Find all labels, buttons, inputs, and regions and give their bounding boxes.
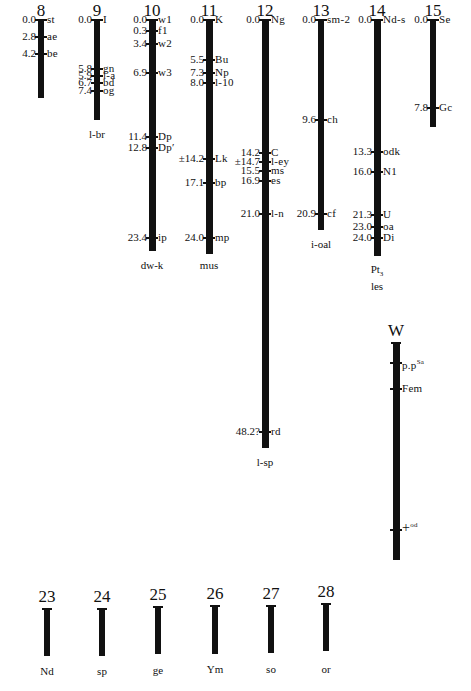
gene-symbol: I [103,14,107,25]
locus-tick [35,53,47,55]
locus-tick [203,237,215,239]
locus-tick [203,72,215,74]
linkage-group-title: 23 [27,588,67,605]
gene-symbol: Lk [215,153,228,164]
locus-tick [35,19,47,21]
locus-tick [315,19,327,21]
locus-position: 13.3 [353,146,372,157]
gene-symbol: f1 [158,25,168,36]
locus-tick [146,147,158,149]
linkage-map: 80.0st2.8ae4.2be90.0I5.8gn5.9l-a6.7bd7.4… [0,0,471,691]
locus-tick [315,119,327,121]
gene-symbol: N1 [383,166,397,177]
linkage-group-footer: ge [128,664,188,676]
chromosome-bar [99,608,105,656]
locus-tick [203,82,215,84]
chromosome-bar [323,603,329,651]
locus-position: ±14.2 [179,153,204,164]
gene-symbol: be [47,48,58,59]
linkage-group-footer: so [241,663,301,675]
linkage-group-title: W [376,322,416,339]
gene-symbol: K [215,14,223,25]
linkage-group-title: 28 [306,583,346,600]
locus-tick [427,19,439,21]
locus-position: 3.4 [133,38,147,49]
locus-tick [203,19,215,21]
gene-symbol: Gc [439,102,452,113]
locus-tick [259,170,271,172]
linkage-group-footer: Pt3les [347,263,407,292]
gene-symbol: bp [215,177,227,188]
locus-tick [259,19,271,21]
linkage-group-title: 25 [138,586,178,603]
locus-tick [203,182,215,184]
locus-position: 0.0 [190,14,204,25]
locus-tick [91,90,103,92]
locus-position: 0.0 [302,14,316,25]
chromosome-bar [94,19,100,120]
chromosome-bar [318,19,324,230]
locus-position: 0.0 [414,14,428,25]
gene-symbol: Fem [402,383,422,394]
chromosome-bar [268,605,274,653]
locus-tick [390,529,402,531]
linkage-group-title: 24 [82,588,122,605]
gene-symbol: cf [327,208,336,219]
locus-tick [315,213,327,215]
locus-tick [259,152,271,154]
locus-position: 0.0 [22,14,36,25]
chromosome-bar [262,19,269,448]
locus-position: 16.0 [353,166,372,177]
locus-position: 0.3 [133,25,147,36]
gene-symbol: odk [383,146,400,157]
locus-tick [371,171,383,173]
locus-tick [146,19,158,21]
locus-position: 24.0 [185,232,204,243]
linkage-group-footer: Ym [185,663,245,675]
bar-cap [391,342,401,344]
gene-symbol: og [103,85,115,96]
locus-position: 0.0 [78,14,92,25]
gene-symbol: st [47,14,55,25]
locus-position: 12.8 [128,142,147,153]
locus-tick [146,43,158,45]
locus-tick [259,180,271,182]
locus-position: 24.0 [353,232,372,243]
gene-symbol: Bu [215,54,228,65]
chromosome-bar [393,342,400,560]
gene-symbol: Dp′ [158,142,175,153]
gene-symbol: p.pSa [402,357,424,371]
gene-symbol: es [271,175,281,186]
locus-tick [203,158,215,160]
locus-tick [146,237,158,239]
chromosome-bar [155,606,161,654]
linkage-group-footer: mus [179,259,239,271]
gene-symbol: sm-2 [327,14,350,25]
bar-cap [266,605,276,607]
locus-tick [146,72,158,74]
locus-tick [259,431,271,433]
linkage-group-footer: l-br [67,128,127,140]
chromosome-bar [374,19,381,256]
locus-position: 0.0 [358,14,372,25]
bar-cap [153,606,163,608]
gene-symbol: Ng [271,14,285,25]
locus-position: 20.9 [297,208,316,219]
locus-tick [371,226,383,228]
chromosome-bar [149,19,156,251]
locus-position: 7.4 [78,85,92,96]
locus-tick [259,161,271,163]
locus-position: 48.2? [236,426,260,437]
locus-position: 9.6 [302,114,316,125]
gene-symbol: w3 [158,67,172,78]
linkage-group-footer: dw-k [122,259,182,271]
gene-symbol: ch [327,114,338,125]
linkage-group-title: 26 [195,585,235,602]
locus-position: 2.8 [22,31,36,42]
gene-symbol: Di [383,232,395,243]
gene-symbol: ae [47,31,57,42]
locus-position: 21.0 [241,208,260,219]
gene-symbol: Se [439,14,451,25]
locus-position: 4.2 [22,48,36,59]
linkage-group-footer: sp [72,665,132,677]
